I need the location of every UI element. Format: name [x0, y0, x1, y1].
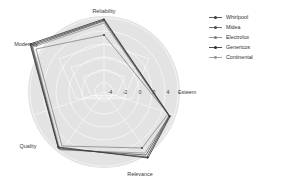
legend-label-whirlpool: Whirlpool [226, 14, 248, 20]
legend-marker-icon [214, 36, 217, 39]
legend-item-genericos[interactable]: Genericos [209, 44, 250, 50]
axis-label-reliability: Reliability [92, 8, 115, 14]
legend-item-whirlpool[interactable]: Whirlpool [209, 14, 248, 20]
legend-item-continental[interactable]: Continental [209, 54, 253, 60]
axis-label-esteem: Esteem [178, 89, 197, 95]
legend-marker-icon [214, 26, 217, 29]
legend-marker-icon [214, 46, 217, 49]
tick-label-zero: 0 [139, 89, 142, 95]
legend-label-midea: Midea [226, 24, 240, 30]
legend-label-genericos: Genericos [226, 44, 250, 50]
legend-label-electrolux: Electrolux [226, 34, 250, 40]
legend-label-continental: Continental [226, 54, 253, 60]
legend-marker-icon [214, 56, 217, 59]
tick-label-four: 4 [167, 89, 170, 95]
axis-label-relevance: Relevance [127, 171, 152, 177]
legend: Whirlpool Midea Electrolux Genericos Con [209, 14, 253, 60]
tick-label-two: 2 [153, 89, 156, 95]
legend-item-electrolux[interactable]: Electrolux [209, 34, 250, 40]
legend-item-midea[interactable]: Midea [209, 24, 240, 30]
tick-label-minus4: -4 [108, 89, 113, 95]
legend-marker-icon [214, 16, 217, 19]
radar-chart: -4 -2 0 2 4 Reliability Esteem Relevance… [0, 0, 283, 183]
axis-label-modernity: Modernity [14, 41, 38, 47]
tick-label-minus2: -2 [123, 89, 128, 95]
axis-label-quality: Quality [20, 143, 37, 149]
